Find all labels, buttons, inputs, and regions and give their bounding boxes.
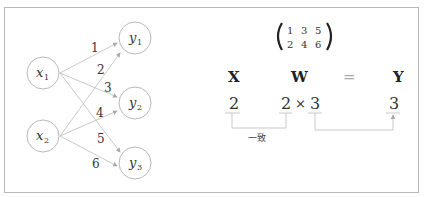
svg-text:3: 3 [137,163,142,172]
label-y: Y [392,68,404,86]
label-x: X [228,68,240,86]
svg-text:3: 3 [301,25,307,36]
svg-text:x: x [36,65,44,80]
svg-text:6: 6 [315,39,321,50]
svg-text:5: 5 [315,25,321,36]
output-node-y3: y 3 [119,147,151,179]
label-eq: = [343,68,356,86]
svg-text:y: y [128,155,137,170]
dim-y: 3 [389,94,399,113]
edges [60,43,120,166]
label-w: W [290,68,309,86]
svg-text:1: 1 [137,38,142,47]
input-node-x2: x 2 [27,120,59,152]
weight-1: 1 [91,41,99,55]
svg-text:2: 2 [137,103,142,112]
times: × [295,96,306,111]
left-paren [278,23,282,50]
output-node-y1: y 1 [119,22,151,54]
input-node-x1: x 1 [27,57,59,89]
svg-text:y: y [128,30,137,45]
match-label: 一致 [248,132,266,143]
edge-x2-y3 [60,136,117,166]
weight-matrix: 1 3 5 2 4 6 [278,23,331,50]
svg-text:y: y [128,95,137,110]
weight-6: 6 [92,157,100,171]
svg-text:1: 1 [44,73,49,82]
svg-text:4: 4 [301,39,307,50]
weight-labels: 1 2 3 4 5 6 [91,41,112,171]
dim-x: 2 [229,94,239,113]
svg-text:x: x [36,128,44,143]
equation: X W = Y 2 2 × 3 3 [228,68,404,113]
match-brackets [225,113,400,130]
weight-2: 2 [97,63,105,77]
svg-text:2: 2 [44,136,49,145]
dim-w1: 2 [281,94,291,113]
weight-3: 3 [104,81,112,95]
svg-text:2: 2 [287,39,293,50]
dim-w2: 3 [310,94,320,113]
weight-5: 5 [97,132,105,146]
output-node-y2: y 2 [119,87,151,119]
svg-text:1: 1 [287,25,293,36]
right-paren [327,23,331,50]
weight-4: 4 [96,106,104,120]
diagram-canvas: 1 2 3 4 5 6 x 1 x 2 y 1 y 2 y 3 1 3 [0,0,425,197]
